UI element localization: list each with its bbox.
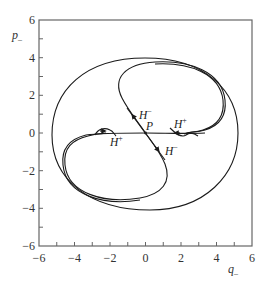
svg-text:−6: −6 — [33, 251, 46, 265]
phase-portrait-figure: −6 −4 −2 0 2 4 6 6 4 2 0 −2 −4 −6 p– q– — [0, 0, 268, 288]
x-axis-ticks — [57, 242, 235, 246]
svg-text:−6: −6 — [22, 239, 35, 253]
label-h-plus-left: H+ — [109, 134, 123, 148]
svg-text:6: 6 — [29, 13, 35, 27]
arrow-h-minus-upper — [133, 116, 136, 120]
h-minus-upper-branch-echo — [155, 64, 223, 134]
svg-text:2: 2 — [178, 251, 184, 265]
svg-text:−2: −2 — [22, 164, 35, 178]
svg-text:0: 0 — [29, 126, 35, 140]
label-h-minus-upper: H− — [138, 107, 152, 121]
h-minus-lower-branch-echo — [63, 135, 140, 202]
x-tick-labels: −6 −4 −2 0 2 4 6 — [33, 251, 255, 265]
svg-text:6: 6 — [249, 251, 255, 265]
fixed-point-p — [144, 132, 147, 135]
svg-text:4: 4 — [214, 251, 220, 265]
label-p: P — [145, 120, 153, 132]
y-tick-labels: 6 4 2 0 −2 −4 −6 — [22, 13, 35, 253]
x-axis-title: q– — [228, 262, 239, 278]
h-plus-left-loop — [95, 129, 116, 136]
svg-text:0: 0 — [143, 251, 149, 265]
svg-text:4: 4 — [29, 51, 35, 65]
svg-text:−4: −4 — [68, 251, 81, 265]
svg-text:−2: −2 — [104, 251, 117, 265]
label-h-plus-right: H+ — [173, 116, 187, 130]
y-axis-title: p– — [11, 28, 23, 44]
label-h-minus-lower: H− — [164, 143, 178, 157]
svg-text:2: 2 — [29, 88, 35, 102]
h-minus-upper-branch — [119, 62, 226, 134]
svg-text:−4: −4 — [22, 201, 35, 215]
